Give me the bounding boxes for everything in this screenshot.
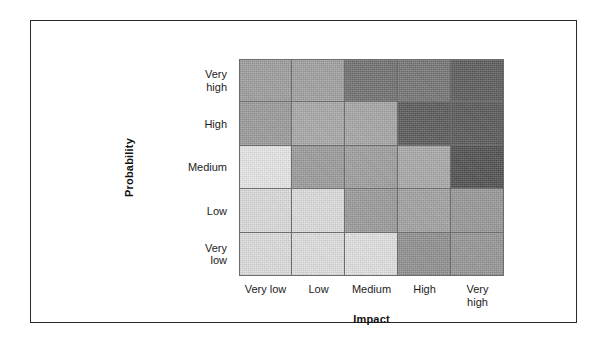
- x-tick-label-very-low: Very low: [239, 279, 292, 313]
- x-tick-label-low: Low: [292, 279, 345, 313]
- y-tick-label-low: Low: [151, 189, 233, 232]
- matrix-cell: [292, 233, 345, 276]
- x-tick-label-very-high: Very high: [451, 279, 504, 313]
- x-tick-label-medium: Medium: [345, 279, 398, 313]
- y-tick-label-very-high: Very high: [151, 59, 233, 102]
- matrix-cell: [398, 189, 451, 232]
- matrix-cell: [398, 59, 451, 102]
- x-axis-title: Impact: [239, 313, 504, 325]
- matrix-cell: [345, 146, 398, 189]
- y-axis-tick-labels: Very high High Medium Low Very low: [151, 59, 233, 276]
- matrix-cell: [451, 189, 504, 232]
- matrix-cell: [239, 146, 292, 189]
- y-tick-label-medium: Medium: [151, 146, 233, 189]
- matrix-cell: [451, 59, 504, 102]
- x-tick-label-high: High: [398, 279, 451, 313]
- y-tick-label-very-low: Very low: [151, 233, 233, 276]
- matrix-cell: [239, 59, 292, 102]
- matrix-cell: [451, 146, 504, 189]
- y-tick-label-high: High: [151, 102, 233, 145]
- matrix-cell: [345, 189, 398, 232]
- risk-matrix-plot-area: [239, 59, 504, 276]
- matrix-cell: [292, 59, 345, 102]
- y-axis-title: Probability: [119, 59, 139, 276]
- matrix-cell: [239, 233, 292, 276]
- matrix-cell: [451, 233, 504, 276]
- matrix-cell: [292, 189, 345, 232]
- x-axis-tick-labels: Very low Low Medium High Very high: [239, 279, 504, 313]
- matrix-cell: [345, 102, 398, 145]
- matrix-cell: [345, 233, 398, 276]
- matrix-cell: [292, 102, 345, 145]
- matrix-cell: [398, 146, 451, 189]
- matrix-cell: [398, 102, 451, 145]
- matrix-cell: [398, 233, 451, 276]
- matrix-cell: [292, 146, 345, 189]
- matrix-cell: [345, 59, 398, 102]
- risk-matrix-grid: [239, 59, 504, 276]
- matrix-cell: [239, 102, 292, 145]
- figure-frame: Probability Very high High Medium Low Ve…: [30, 20, 577, 323]
- matrix-cell: [451, 102, 504, 145]
- matrix-cell: [239, 189, 292, 232]
